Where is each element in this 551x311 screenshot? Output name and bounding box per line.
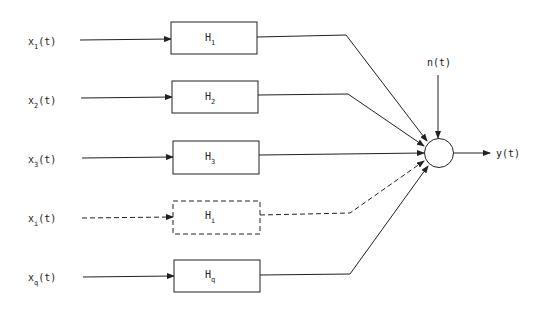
output: y(t)	[454, 148, 520, 159]
filter-block-h2	[172, 81, 258, 113]
input-arrow-q	[83, 276, 174, 277]
output-path-q	[260, 166, 428, 275]
output-path-1	[257, 35, 427, 141]
input-label-xq: xq(t)	[28, 272, 56, 287]
filter-block-h3	[173, 141, 259, 174]
filter-block-hq	[174, 260, 260, 292]
branch-3: x3(t) H3	[28, 141, 424, 174]
input-label-xi: xi(t)	[28, 213, 56, 228]
noise-label: n(t)	[427, 57, 451, 68]
filter-block-hi	[173, 201, 260, 234]
input-label-x2: x2(t)	[28, 95, 56, 110]
input-label-x1: x1(t)	[28, 36, 56, 51]
branch-2: x2(t) H2	[28, 81, 424, 146]
noise-input: n(t)	[427, 57, 451, 138]
output-path-2	[258, 94, 424, 146]
input-arrow-1	[80, 39, 171, 40]
input-arrow-2	[81, 97, 172, 98]
block-diagram: x1(t) H1 x2(t) H2 x3(t) H3 xi(t) Hi xq(t…	[0, 0, 551, 311]
input-arrow-i	[82, 217, 173, 218]
output-path-3	[259, 153, 424, 155]
input-arrow-3	[82, 157, 173, 158]
summing-junction	[425, 139, 454, 168]
filter-block-h1	[171, 22, 257, 54]
output-label: y(t)	[496, 148, 520, 159]
input-label-x3: x3(t)	[28, 154, 56, 169]
output-path-i	[260, 161, 424, 215]
